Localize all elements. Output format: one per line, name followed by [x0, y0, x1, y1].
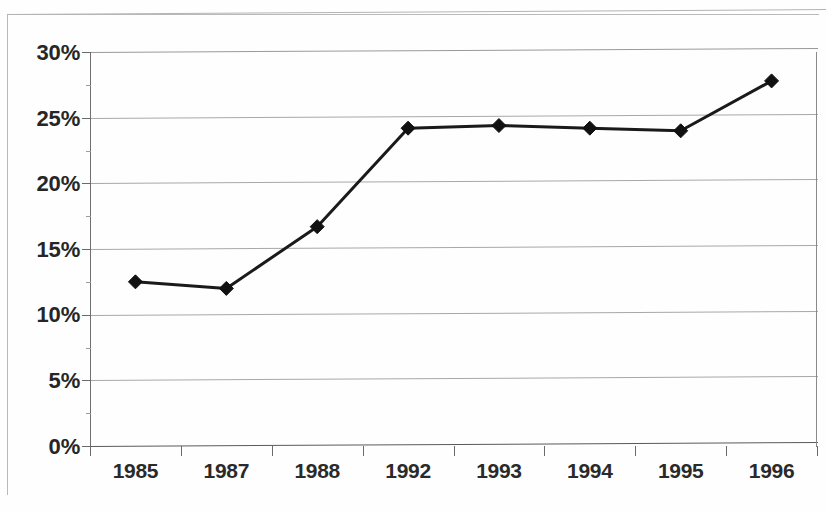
- x-tick-label: 1988: [271, 459, 363, 483]
- y-tick-label: 30%: [8, 40, 80, 66]
- x-tick: [90, 446, 91, 456]
- y-minor-tick: [86, 413, 91, 414]
- y-tick-label: 20%: [8, 171, 80, 197]
- y-tick: [82, 52, 91, 53]
- x-tick: [635, 446, 636, 456]
- x-tick: [363, 446, 364, 456]
- chart-canvas: 30% 25% 20% 15% 10% 5% 0% 1985 1987 1988…: [0, 0, 826, 513]
- x-tick: [454, 446, 455, 456]
- x-tick-label: 1987: [180, 459, 272, 483]
- x-tick: [272, 446, 273, 456]
- plot-right-border: [816, 52, 817, 447]
- y-tick: [82, 118, 91, 119]
- x-tick-label: 1992: [362, 459, 454, 483]
- x-tick: [726, 446, 727, 456]
- y-tick-label: 5%: [8, 368, 80, 394]
- x-tick-label: 1993: [453, 459, 545, 483]
- y-tick-label: 25%: [8, 106, 80, 132]
- y-tick-label: 15%: [8, 237, 80, 263]
- x-tick-label: 1985: [89, 459, 181, 483]
- x-tick-label: 1995: [635, 459, 727, 483]
- y-minor-tick: [86, 348, 91, 349]
- y-axis: 30% 25% 20% 15% 10% 5% 0%: [0, 0, 80, 513]
- y-tick-label: 0%: [8, 434, 80, 460]
- y-minor-tick: [86, 216, 91, 217]
- x-tick: [817, 446, 818, 456]
- figure-outer-border: [7, 14, 819, 495]
- y-tick-label: 10%: [8, 302, 80, 328]
- y-tick: [82, 249, 91, 250]
- y-minor-tick: [86, 282, 91, 283]
- x-tick: [181, 446, 182, 456]
- x-tick: [544, 446, 545, 456]
- y-tick: [82, 183, 91, 184]
- x-tick-label: 1996: [726, 459, 818, 483]
- y-minor-tick: [86, 85, 91, 86]
- y-minor-tick: [86, 151, 91, 152]
- x-tick-label: 1994: [544, 459, 636, 483]
- y-tick: [82, 380, 91, 381]
- y-tick: [82, 315, 91, 316]
